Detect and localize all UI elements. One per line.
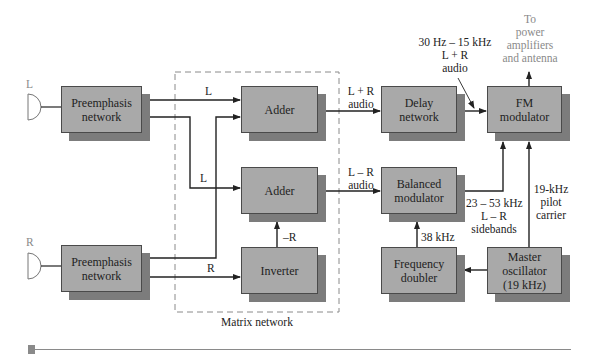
- annotation-output-destination: Topoweramplifiersand antenna: [500, 13, 560, 65]
- annotation-sidebands: 23 – 53 kHzL – Rsidebands: [466, 197, 522, 236]
- matrix-network-label: Matrix network: [219, 316, 295, 329]
- wire-l-to-adder-diff: [146, 117, 240, 188]
- input-label-right: R: [26, 236, 34, 249]
- input-label-left: L: [26, 78, 33, 91]
- footer-rule: [35, 349, 571, 350]
- annotation-delay-output: 30 Hz – 15 kHzL + Raudio: [418, 36, 492, 75]
- signal-label-neg-r: –R: [283, 231, 296, 244]
- signal-label-l-top: L: [205, 85, 212, 98]
- signal-label-r: R: [207, 262, 215, 275]
- microphone-right-icon: [28, 253, 41, 279]
- microphone-left-icon: [28, 94, 41, 120]
- signal-label-l-bottom: L: [200, 172, 207, 185]
- signal-label-l-plus-r-audio: L + Raudio: [346, 85, 376, 111]
- annotation-pilot-carrier: 19-kHzpilotcarrier: [532, 183, 570, 222]
- signal-label-l-minus-r-audio: L – Raudio: [346, 166, 376, 192]
- wire-balanced-to-fm: [463, 142, 503, 191]
- footer-marker: [28, 345, 35, 354]
- annotation-38khz: 38 kHz: [421, 231, 455, 244]
